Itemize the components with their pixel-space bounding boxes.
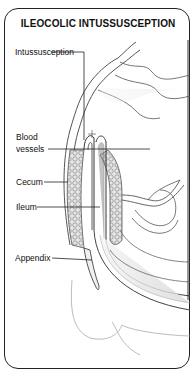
label-blood-vessels-line2: vessels bbox=[16, 144, 44, 154]
label-cecum: Cecum bbox=[16, 177, 43, 187]
label-blood-vessels-line1: Blood bbox=[16, 132, 38, 142]
label-appendix: Appendix bbox=[15, 253, 50, 263]
label-intussusception: Intussusception bbox=[15, 47, 74, 57]
label-ileum: Ileum bbox=[16, 202, 37, 212]
